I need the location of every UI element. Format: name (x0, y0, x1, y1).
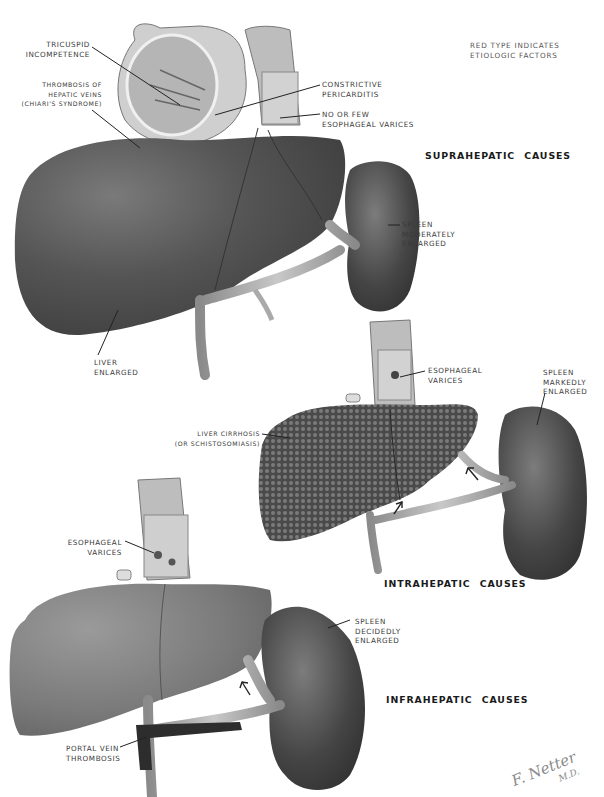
label-portal-vein-thrombosis: PORTAL VEIN THROMBOSIS (66, 744, 120, 763)
label-tricuspid: TRICUSPID INCOMPETENCE (18, 40, 90, 59)
label-line: (OR SCHISTOSOMIASIS) (175, 440, 260, 447)
label-line: THROMBOSIS (66, 754, 120, 763)
label-line: NO OR FEW (322, 110, 369, 119)
anatomy-drawing (0, 0, 604, 797)
label-line: CONSTRICTIVE (322, 80, 382, 89)
illustration-plate: RED TYPE INDICATES ETIOLOGIC FACTORS SUP… (0, 0, 604, 797)
label-line: ENLARGED (402, 239, 446, 248)
label-line: ENLARGED (543, 387, 587, 396)
label-esophageal-varices-infra: ESOPHAGEAL VARICES (50, 538, 122, 557)
label-line: TRICUSPID (46, 40, 90, 49)
heading-intrahepatic: INTRAHEPATIC CAUSES (384, 578, 526, 589)
label-line: MODERATELY (402, 230, 455, 239)
label-thrombosis-hepatic-veins: THROMBOSIS OF HEPATIC VEINS (CHIARI'S SY… (12, 80, 102, 109)
heading-infrahepatic: INFRAHEPATIC CAUSES (386, 694, 529, 705)
label-liver-cirrhosis: LIVER CIRRHOSIS (OR SCHISTOSOMIASIS) (168, 429, 260, 448)
label-no-few-varices: NO OR FEW ESOPHAGEAL VARICES (322, 110, 414, 129)
liver-enlarged (15, 136, 345, 335)
label-spleen-decidedly-enlarged: SPLEEN DECIDEDLY ENLARGED (355, 617, 401, 646)
label-line: ESOPHAGEAL (428, 366, 482, 375)
spleen-markedly-enlarged (499, 407, 587, 580)
label-line: VARICES (428, 376, 463, 385)
legend-line-1: RED TYPE INDICATES (470, 41, 560, 50)
label-line: HEPATIC VEINS (48, 91, 102, 98)
label-line: DECIDEDLY (355, 627, 401, 636)
label-line: PERICARDITIS (322, 90, 379, 99)
label-esophageal-varices-intra: ESOPHAGEAL VARICES (428, 366, 482, 385)
label-line: ESOPHAGEAL VARICES (322, 120, 414, 129)
legend-line-2: ETIOLOGIC FACTORS (470, 51, 558, 60)
label-line: PORTAL VEIN (66, 744, 119, 753)
label-spleen-moderately-enlarged: SPLEEN MODERATELY ENLARGED (402, 220, 455, 249)
label-line: LIVER CIRRHOSIS (197, 430, 260, 437)
label-line: SPLEEN (402, 220, 433, 229)
label-constrictive-pericarditis: CONSTRICTIVE PERICARDITIS (322, 80, 382, 99)
label-line: MARKEDLY (543, 378, 586, 387)
spleen-decidedly-enlarged (261, 607, 365, 790)
section-suprahepatic (15, 24, 420, 375)
label-line: VARICES (87, 548, 122, 557)
legend-note: RED TYPE INDICATES ETIOLOGIC FACTORS (470, 41, 560, 60)
flow-arrow-infrahepatic (240, 682, 250, 695)
label-liver-enlarged: LIVER ENLARGED (94, 358, 138, 377)
label-line: SPLEEN (543, 368, 574, 377)
heart-chamber (127, 35, 217, 135)
heading-suprahepatic: SUPRAHEPATIC CAUSES (425, 150, 571, 161)
label-line: LIVER (94, 358, 118, 367)
label-line: (CHIARI'S SYNDROME) (22, 100, 103, 107)
label-line: ENLARGED (94, 368, 138, 377)
label-line: SPLEEN (355, 617, 386, 626)
label-line: ENLARGED (355, 636, 399, 645)
section-intrahepatic (259, 320, 587, 580)
label-line: INCOMPETENCE (26, 50, 90, 59)
label-line: THROMBOSIS OF (42, 81, 102, 88)
label-spleen-markedly-enlarged: SPLEEN MARKEDLY ENLARGED (543, 368, 587, 397)
label-line: ESOPHAGEAL (68, 538, 122, 547)
